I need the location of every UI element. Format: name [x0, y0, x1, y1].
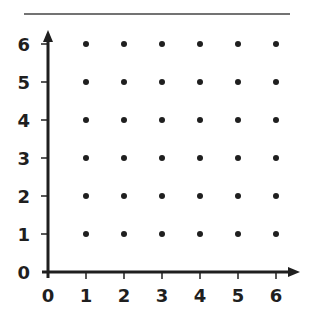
- lattice-point: [121, 231, 127, 237]
- lattice-point: [83, 155, 89, 161]
- lattice-point: [273, 231, 279, 237]
- y-tick-label: 0: [17, 262, 30, 283]
- lattice-point: [273, 79, 279, 85]
- lattice-point: [83, 193, 89, 199]
- x-tick-label: 6: [270, 285, 283, 306]
- x-tick-label: 5: [232, 285, 245, 306]
- lattice-point: [159, 79, 165, 85]
- lattice-point: [83, 231, 89, 237]
- lattice-point: [197, 41, 203, 47]
- lattice-point: [235, 79, 241, 85]
- y-tick-label: 2: [17, 186, 30, 207]
- x-axis-arrow-icon: [288, 267, 300, 277]
- lattice-point: [235, 117, 241, 123]
- lattice-point: [121, 117, 127, 123]
- lattice-point: [121, 41, 127, 47]
- lattice-point: [83, 117, 89, 123]
- lattice-point: [197, 155, 203, 161]
- y-axis-arrow-icon: [43, 30, 53, 42]
- lattice-point: [235, 231, 241, 237]
- lattice-point: [83, 79, 89, 85]
- x-tick-label: 2: [118, 285, 131, 306]
- y-tick-label: 1: [17, 224, 30, 245]
- lattice-point: [159, 193, 165, 199]
- lattice-point: [83, 41, 89, 47]
- lattice-point: [235, 41, 241, 47]
- x-tick-label: 3: [156, 285, 169, 306]
- lattice-point: [273, 155, 279, 161]
- lattice-point: [235, 155, 241, 161]
- lattice-point: [197, 79, 203, 85]
- lattice-point: [121, 79, 127, 85]
- x-tick-label: 1: [80, 285, 93, 306]
- lattice-points: [83, 41, 279, 237]
- lattice-point: [159, 117, 165, 123]
- lattice-point: [197, 231, 203, 237]
- lattice-point: [235, 193, 241, 199]
- lattice-point: [159, 41, 165, 47]
- y-tick-label: 3: [17, 148, 30, 169]
- lattice-point: [273, 117, 279, 123]
- y-tick-label: 6: [17, 34, 30, 55]
- tick-marks: [41, 44, 276, 279]
- x-tick-labels: 0123456: [42, 285, 283, 306]
- lattice-point: [121, 155, 127, 161]
- lattice-point: [273, 193, 279, 199]
- x-tick-label: 0: [42, 285, 55, 306]
- y-tick-label: 4: [17, 110, 30, 131]
- lattice-point: [159, 231, 165, 237]
- lattice-point: [159, 155, 165, 161]
- lattice-point: [197, 117, 203, 123]
- lattice-point: [121, 193, 127, 199]
- axes: [42, 30, 300, 278]
- lattice-point: [197, 193, 203, 199]
- lattice-point: [273, 41, 279, 47]
- y-tick-labels: 0123456: [17, 34, 30, 283]
- x-tick-label: 4: [194, 285, 207, 306]
- coordinate-grid: 0123456 0123456: [0, 0, 310, 320]
- y-tick-label: 5: [17, 72, 30, 93]
